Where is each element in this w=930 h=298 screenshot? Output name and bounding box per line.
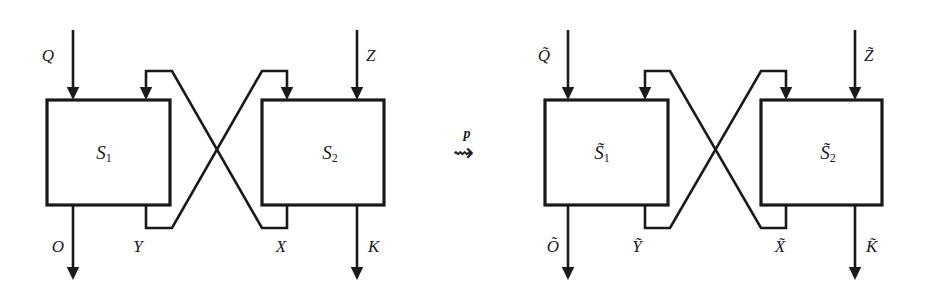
figure-canvas: S1 S2 Q Z O Y X K p ⇝ (0, 0, 930, 298)
left-output-wire-K (351, 205, 363, 280)
squiggle-arrow-icon: ⇝ (453, 139, 474, 166)
right-input-wire-Zt (849, 30, 861, 100)
block-S1-tilde-subscript: 1 (604, 151, 610, 165)
label-Q-tilde: Q̃ (538, 46, 550, 65)
label-Y: Y (133, 237, 144, 256)
label-Z-tilde: Z̃ (864, 46, 874, 65)
label-Y-tilde: Ỹ (632, 237, 643, 256)
left-input-wire-Q (67, 30, 79, 100)
label-K: K (367, 237, 381, 256)
block-S2-tilde[interactable]: S̃2 (761, 100, 882, 205)
block-diagram-svg: S1 S2 Q Z O Y X K p ⇝ (0, 0, 930, 298)
block-S2-subscript: 2 (332, 151, 338, 165)
block-S2-base: S (322, 142, 332, 163)
right-system: S̃1 S̃2 Q̃ Z̃ Õ Ỹ X̃ K̃ (538, 30, 882, 280)
block-S1-subscript: 1 (106, 151, 112, 165)
right-output-wire-Kt (849, 205, 861, 280)
label-X: X (275, 237, 287, 256)
block-S2[interactable]: S2 (262, 100, 384, 205)
label-Q: Q (42, 46, 54, 65)
relation-symbol: p ⇝ (453, 126, 474, 166)
block-S1-tilde[interactable]: S̃1 (545, 100, 668, 205)
left-output-wire-O (67, 205, 79, 280)
label-X-tilde: X̃ (774, 237, 786, 256)
right-input-wire-Qt (562, 30, 574, 100)
label-O: O (52, 237, 64, 256)
left-input-wire-Z (351, 30, 363, 100)
left-system: S1 S2 Q Z O Y X K (42, 30, 384, 280)
block-S1-base: S (96, 142, 106, 163)
block-S2-tilde-subscript: 2 (830, 151, 836, 165)
label-O-tilde: Õ (547, 237, 559, 256)
block-S1[interactable]: S1 (47, 100, 170, 205)
label-K-tilde: K̃ (865, 237, 879, 256)
right-output-wire-Ot (562, 205, 574, 280)
label-Z: Z (366, 46, 376, 65)
